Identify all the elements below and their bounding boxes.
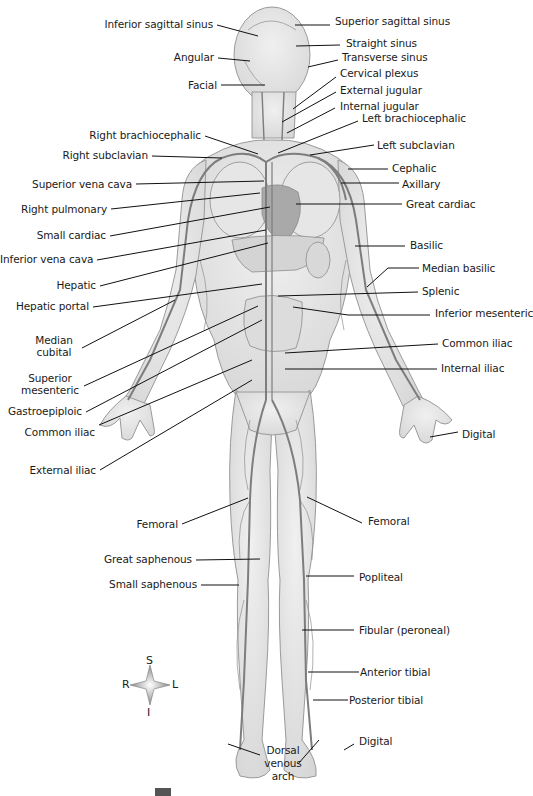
label-superior-vena-cava: Superior vena cava [20,178,132,190]
compass-right: R [122,678,130,691]
label-femoral-left: Femoral [120,518,178,530]
compass-superior: S [146,654,153,667]
compass-star-icon [130,665,170,705]
label-facial: Facial [160,79,217,91]
label-hepatic-portal: Hepatic portal [10,300,89,312]
page-marker [155,788,171,796]
stomach [306,242,330,278]
label-straight-sinus: Straight sinus [346,37,417,49]
leader-line [99,360,252,425]
compass-rose [130,665,170,705]
leader-line [430,432,458,437]
label-dorsal-venous-arch: Dorsalvenousarch [260,744,306,783]
label-great-saphenous: Great saphenous [90,553,192,565]
label-hepatic: Hepatic [40,279,96,291]
label-external-iliac: External iliac [20,464,96,476]
label-internal-iliac: Internal iliac [441,362,504,374]
label-digital-hand: Digital [462,428,495,440]
label-femoral-right: Femoral [368,515,410,527]
intestines [244,295,303,351]
label-inferior-mesenteric: Inferior mesenteric [435,307,533,319]
label-transverse-sinus: Transverse sinus [342,51,428,63]
label-angular: Angular [140,51,214,63]
label-right-pulmonary: Right pulmonary [20,203,107,215]
label-gastroepiploic: Gastroepiploic [5,405,82,417]
label-left-brachiocephalic: Left brachiocephalic [362,112,466,124]
label-anterior-tibial: Anterior tibial [360,666,430,678]
label-right-subclavian: Right subclavian [40,149,148,161]
label-splenic: Splenic [422,285,459,297]
label-left-subclavian: Left subclavian [377,139,455,151]
label-external-jugular: External jugular [340,84,422,96]
label-cervical-plexus: Cervical plexus [340,67,418,79]
label-great-cardiac: Great cardiac [406,198,475,210]
label-axillary: Axillary [402,178,440,190]
leader-line [308,60,338,67]
leader-line [344,744,354,750]
label-median-basilic: Median basilic [422,262,495,274]
label-small-cardiac: Small cardiac [20,229,106,241]
label-small-saphenous: Small saphenous [95,578,197,590]
label-popliteal: Popliteal [359,571,403,583]
vein-diagram: S I R L Inferior sagittal sinusAngularFa… [0,0,533,796]
label-superior-sagittal-sinus: Superior sagittal sinus [335,15,450,27]
label-basilic: Basilic [410,239,443,251]
label-posterior-tibial: Posterior tibial [349,694,423,706]
label-inferior-vena-cava: Inferior vena cava [0,253,93,265]
label-common-iliac-left: Common iliac [20,426,95,438]
label-common-iliac-right: Common iliac [442,337,512,349]
label-superior-mesenteric: Superiormesenteric [20,372,80,396]
label-right-brachiocephalic: Right brachiocephalic [60,129,201,141]
label-digital-foot: Digital [359,735,392,747]
right-lung [210,162,270,238]
label-inferior-sagittal-sinus: Inferior sagittal sinus [20,18,213,30]
label-median-cubital: Mediancubital [30,334,78,358]
compass-inferior: I [147,706,150,719]
label-fibular-peroneal: Fibular (peroneal) [359,624,450,636]
label-internal-jugular: Internal jugular [340,100,419,112]
compass-left: L [172,678,178,691]
label-cephalic: Cephalic [392,162,436,174]
